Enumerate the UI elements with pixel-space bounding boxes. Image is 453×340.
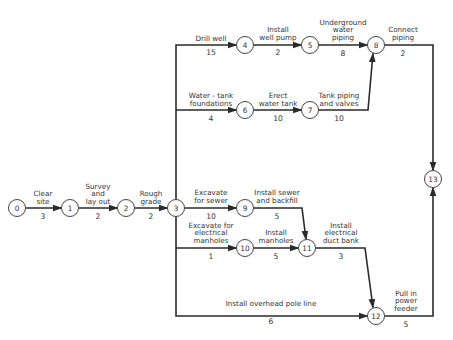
event-node-label: 1 — [68, 204, 73, 213]
activity-label: duct bank — [323, 236, 360, 245]
activity-label: lay out — [86, 197, 111, 206]
activity-duration: 4 — [209, 114, 214, 123]
activity-label: manholes — [193, 236, 228, 245]
network-diagram: 012345678910111213 Clearsite3Surveyandla… — [0, 0, 453, 340]
network-svg: 012345678910111213 Clearsite3Surveyandla… — [0, 0, 453, 340]
activity-label: piping — [392, 33, 414, 42]
activity-label: Drill well — [195, 34, 226, 43]
activity-arrows — [26, 45, 434, 316]
activity-label: manholes — [258, 236, 293, 245]
event-node-label: 8 — [374, 41, 379, 50]
activity-arrow-8-13 — [385, 45, 434, 171]
event-nodes: 012345678910111213 — [9, 37, 442, 325]
activity-duration: 3 — [339, 252, 344, 261]
activity-duration: 8 — [341, 49, 346, 58]
activity-duration: 10 — [273, 114, 283, 123]
event-node-label: 4 — [243, 41, 248, 50]
event-node-label: 12 — [371, 312, 380, 321]
event-node-label: 7 — [308, 106, 313, 115]
event-node-label: 5 — [308, 41, 313, 50]
activity-label: site — [37, 197, 51, 206]
activity-duration: 3 — [41, 212, 46, 221]
activity-arrow-3-4 — [176, 45, 237, 200]
activity-duration: 10 — [206, 212, 216, 221]
activity-label: water tank — [259, 99, 299, 108]
activity-duration: 2 — [149, 212, 154, 221]
activity-duration: 15 — [206, 48, 216, 57]
event-node-label: 3 — [174, 204, 179, 213]
activity-label: foundations — [190, 99, 233, 108]
activity-label: piping — [332, 33, 354, 42]
activity-duration: 5 — [404, 320, 409, 329]
activity-label: well pump — [259, 33, 297, 42]
activity-duration: 2 — [96, 212, 101, 221]
activity-duration: 1 — [209, 252, 214, 261]
activity-label: and valves — [320, 99, 359, 108]
event-node-label: 10 — [240, 244, 250, 253]
activity-arrow-11-12 — [316, 248, 374, 308]
event-node-label: 6 — [243, 106, 248, 115]
activity-label: and backfill — [256, 196, 297, 205]
activity-duration: 2 — [401, 49, 406, 58]
activity-label: Install overhead pole line — [226, 299, 317, 308]
activity-label: grade — [141, 197, 162, 206]
activity-duration: 2 — [276, 48, 281, 57]
activity-duration: 6 — [269, 317, 274, 326]
event-node-label: 13 — [428, 175, 438, 184]
event-node-label: 0 — [15, 204, 20, 213]
event-node-label: 11 — [302, 244, 312, 253]
event-node-label: 9 — [243, 204, 248, 213]
activity-label: for sewer — [194, 196, 228, 205]
activity-duration: 5 — [274, 252, 279, 261]
activity-duration: 5 — [275, 212, 280, 221]
activity-duration: 10 — [334, 114, 344, 123]
activity-label: feeder — [394, 304, 417, 313]
event-node-label: 2 — [124, 204, 129, 213]
activity-labels: Clearsite3Surveyandlay out2Roughgrade2Dr… — [34, 18, 418, 329]
